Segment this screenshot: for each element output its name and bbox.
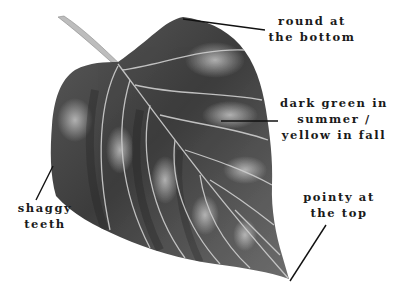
label-line: the top bbox=[298, 205, 380, 221]
label-line: pointy at bbox=[298, 189, 380, 205]
pointer-tip bbox=[290, 225, 326, 281]
label-line: round at bbox=[262, 13, 362, 29]
label-pointy-top: pointy at the top bbox=[298, 189, 380, 221]
label-round-at-bottom: round at the bottom bbox=[262, 13, 362, 45]
label-line: summer / bbox=[276, 111, 392, 127]
label-line: yellow in fall bbox=[276, 127, 392, 143]
label-line: dark green in bbox=[276, 95, 392, 111]
leaf-stem bbox=[58, 16, 122, 68]
label-line: shaggy bbox=[10, 200, 80, 216]
label-line: the bottom bbox=[262, 29, 362, 45]
label-line: teeth bbox=[10, 216, 80, 232]
label-leaf-color: dark green in summer / yellow in fall bbox=[276, 95, 392, 143]
pointer-teeth bbox=[36, 166, 53, 200]
label-shaggy-teeth: shaggy teeth bbox=[10, 200, 80, 232]
